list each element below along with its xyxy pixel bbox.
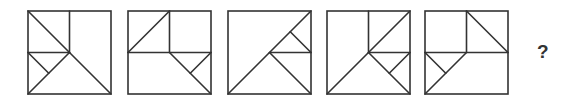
panel-line: [128, 11, 170, 53]
panel-line: [290, 32, 311, 53]
puzzle-figure: [0, 0, 577, 102]
panel-line: [389, 53, 410, 74]
panel-2: [128, 11, 211, 94]
panel-3: [228, 11, 311, 94]
panel-line: [28, 53, 49, 74]
panel-line: [270, 53, 312, 95]
panel-line: [70, 53, 112, 95]
panel-1: [28, 11, 111, 94]
panel-line: [425, 53, 446, 74]
panel-sequence: [28, 11, 508, 94]
panel-line: [467, 11, 509, 53]
panel-line: [28, 11, 70, 53]
question-mark: ?: [537, 41, 549, 63]
panel-line: [190, 53, 211, 74]
panel-4: [327, 11, 410, 94]
panel-5: [425, 11, 508, 94]
